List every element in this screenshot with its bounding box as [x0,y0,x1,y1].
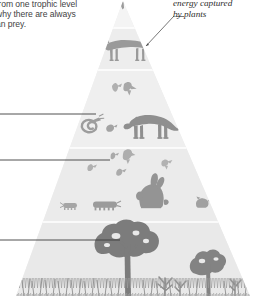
tier-tertiary-fill [0,28,258,70]
energy-captured-caption: energy captured by plants [173,0,255,20]
energy-pyramid-figure: from one trophic level why there are alw… [0,0,258,299]
trophic-level-caption-line-2: why there are always [0,9,112,19]
pointer-line-energy-captured [146,16,174,46]
trophic-level-caption-line-3: an prey. [0,19,112,29]
trophic-level-caption: from one trophic level why there are alw… [0,0,112,30]
energy-captured-caption-line-1: energy captured [173,0,255,9]
tier-secondary-fill [0,70,258,148]
pyramid-graphic [0,0,258,299]
tier-primary-fill [0,148,258,222]
trophic-level-caption-line-1: from one trophic level [0,0,112,9]
energy-captured-caption-line-2: by plants [173,9,255,20]
pyramid-svg [0,0,258,299]
grass-band [0,278,258,296]
